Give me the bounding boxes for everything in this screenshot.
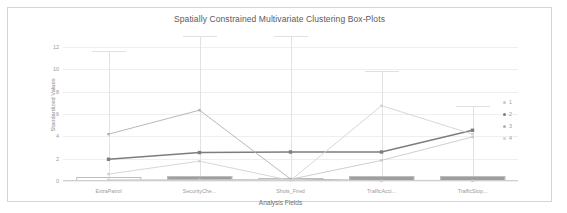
series-marker xyxy=(289,150,292,153)
series-marker xyxy=(107,173,109,175)
series-marker xyxy=(380,105,382,107)
y-tick-label: 12 xyxy=(53,44,59,50)
y-tick-label: 2 xyxy=(56,156,59,162)
chart-title: Spatially Constrained Multivariate Clust… xyxy=(8,14,551,24)
series-lines xyxy=(63,36,518,181)
y-tick-label: 4 xyxy=(56,133,59,139)
x-tick-label: TrafficStop... xyxy=(458,188,488,194)
series-marker xyxy=(198,151,201,154)
series-marker xyxy=(107,133,109,135)
x-axis-line xyxy=(63,180,518,181)
series-marker xyxy=(107,158,110,161)
series-marker xyxy=(198,160,200,162)
legend-swatch-icon xyxy=(503,125,506,128)
y-axis-label: Standardized Values xyxy=(50,78,56,131)
plot-area: 024681012 xyxy=(63,36,518,181)
y-tick-label: 8 xyxy=(56,89,59,95)
series-marker xyxy=(380,150,383,153)
series-marker xyxy=(471,133,473,135)
x-tick-label: TrafficAcci... xyxy=(367,188,396,194)
legend-item[interactable]: 1 xyxy=(503,96,543,108)
legend: 1234 xyxy=(503,96,543,144)
series-line xyxy=(109,110,473,180)
x-axis-label: Analysis Fields xyxy=(8,199,553,206)
legend-swatch-icon xyxy=(503,101,506,104)
x-tick-label: ExtraPatrol xyxy=(95,188,121,194)
legend-item[interactable]: 3 xyxy=(503,120,543,132)
y-tick-label: 0 xyxy=(56,178,59,184)
legend-label: 1 xyxy=(509,99,512,105)
legend-label: 2 xyxy=(509,111,512,117)
x-tick-label: SecurityChe... xyxy=(183,188,216,194)
series-line xyxy=(109,130,473,159)
series-marker xyxy=(471,136,473,138)
y-tick-label: 10 xyxy=(53,66,59,72)
legend-label: 4 xyxy=(509,135,512,141)
chart-frame: Spatially Constrained Multivariate Clust… xyxy=(7,7,552,202)
legend-swatch-icon xyxy=(503,113,506,116)
legend-item[interactable]: 4 xyxy=(503,132,543,144)
series-marker xyxy=(198,109,200,111)
legend-swatch-icon xyxy=(503,137,506,140)
legend-item[interactable]: 2 xyxy=(503,108,543,120)
x-tick-label: Shots_Fired xyxy=(276,188,305,194)
legend-label: 3 xyxy=(509,123,512,129)
y-tick-label: 6 xyxy=(56,111,59,117)
series-marker xyxy=(471,129,474,132)
chart-panel: Spatially Constrained Multivariate Clust… xyxy=(0,0,567,213)
series-marker xyxy=(380,159,382,161)
